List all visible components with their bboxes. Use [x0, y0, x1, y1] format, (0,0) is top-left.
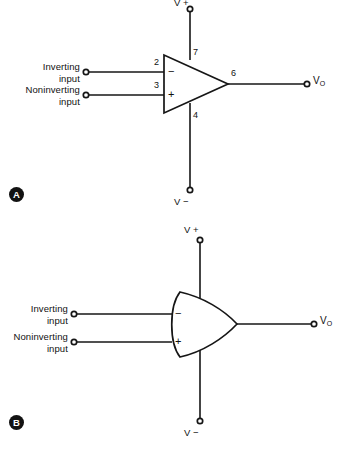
noninverting-input-label-a-line2: input	[59, 96, 80, 107]
inverting-input-label-b: Inverting input	[0, 303, 68, 326]
vplus-label-a: V +	[174, 0, 189, 8]
vplus-terminal-b[interactable]	[197, 237, 202, 242]
inverting-input-label-b-line2: input	[47, 315, 68, 326]
vminus-label-a: V −	[174, 196, 189, 207]
output-label-a-main: V	[313, 75, 320, 86]
cropped-caption-strip	[0, 446, 346, 451]
noninverting-input-label-b-line1: Noninverting	[13, 331, 68, 342]
noninverting-sign-b: +	[175, 335, 181, 347]
output-terminal-a[interactable]	[304, 81, 309, 86]
noninverting-input-label-a: Noninverting input	[0, 84, 80, 107]
inverting-input-terminal-b[interactable]	[71, 311, 76, 316]
output-label-a: VO	[313, 75, 325, 86]
noninverting-input-label-b: Noninverting input	[0, 331, 68, 354]
pin-number-3-a: 3	[154, 80, 159, 90]
inverting-input-label-a-line1: Inverting	[43, 61, 80, 72]
inverting-input-label-a-line2: input	[59, 73, 80, 84]
output-label-b: VO	[320, 315, 332, 326]
figure-canvas: Inverting input Noninverting input 2 3 7…	[0, 0, 346, 451]
opamp-curved-body-b	[172, 292, 237, 357]
inverting-input-label-a: Inverting input	[0, 61, 80, 84]
vminus-terminal-b[interactable]	[197, 418, 202, 423]
output-label-b-sub: O	[327, 320, 332, 327]
noninverting-sign-a: +	[168, 88, 174, 100]
pin-number-6-a: 6	[231, 68, 236, 78]
output-terminal-b[interactable]	[311, 321, 316, 326]
inverting-sign-a: −	[168, 65, 174, 77]
output-label-b-main: V	[320, 315, 327, 326]
vplus-label-b: V +	[184, 224, 199, 235]
panel-a-schematic	[0, 0, 346, 226]
pin-number-7-a: 7	[193, 47, 198, 57]
panel-b-curved-symbol: Inverting input Noninverting input − + V…	[0, 226, 346, 451]
vminus-terminal-a[interactable]	[187, 187, 192, 192]
output-label-a-sub: O	[320, 80, 325, 87]
noninverting-input-label-b-line2: input	[47, 343, 68, 354]
noninverting-input-terminal-a[interactable]	[83, 92, 88, 97]
noninverting-input-terminal-b[interactable]	[71, 339, 76, 344]
inverting-input-terminal-a[interactable]	[83, 69, 88, 74]
panel-marker-b: B	[9, 415, 24, 430]
vminus-label-b: V −	[184, 427, 199, 438]
pin-number-2-a: 2	[154, 57, 159, 67]
inverting-sign-b: −	[175, 307, 181, 319]
noninverting-input-label-a-line1: Noninverting	[25, 84, 80, 95]
pin-number-4-a: 4	[193, 110, 198, 120]
opamp-triangle-body-a	[164, 55, 228, 113]
inverting-input-label-b-line1: Inverting	[31, 303, 68, 314]
panel-a-triangle-symbol: Inverting input Noninverting input 2 3 7…	[0, 0, 346, 226]
panel-marker-a: A	[9, 187, 24, 202]
